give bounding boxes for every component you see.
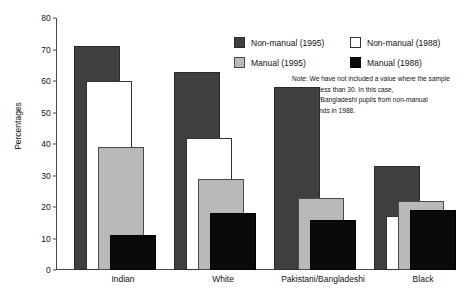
- y-axis-label-container: Percentages: [14, 0, 28, 252]
- y-tick-mark-20: [53, 207, 56, 208]
- x-tick-label: Pakistani/Bangladeshi: [281, 274, 365, 284]
- legend-swatch-icon: [350, 37, 361, 48]
- y-tick-10: 10: [41, 234, 51, 244]
- x-tick-label: White: [212, 274, 234, 284]
- y-tick-mark-80: [53, 18, 56, 19]
- y-tick-mark-60: [53, 81, 56, 82]
- legend-column-right: Non-manual (1988)Manual (1988): [350, 34, 440, 74]
- y-tick-20: 20: [41, 202, 51, 212]
- y-tick-mark-70: [53, 49, 56, 50]
- legend-item: Non-manual (1988): [350, 34, 440, 51]
- y-tick-0: 0: [46, 265, 51, 275]
- legend-label: Non-manual (1995): [251, 38, 324, 48]
- y-tick-70: 70: [41, 45, 51, 55]
- legend-item: Non-manual (1995): [234, 34, 324, 51]
- x-tick-label: Indian: [111, 274, 134, 284]
- legend-item: Manual (1995): [234, 54, 324, 71]
- y-tick-30: 30: [41, 171, 51, 181]
- legend-swatch-icon: [234, 37, 245, 48]
- legend-swatch-icon: [350, 57, 361, 68]
- y-tick-mark-50: [53, 112, 56, 113]
- y-axis-label: Percentages: [13, 102, 23, 150]
- y-tick-80: 80: [41, 13, 51, 23]
- bar-chart: Percentages 01020304050607080 IndianWhit…: [0, 0, 464, 298]
- y-tick-40: 40: [41, 139, 51, 149]
- legend-column-left: Non-manual (1995)Manual (1995): [234, 34, 324, 74]
- y-tick-mark-40: [53, 144, 56, 145]
- bar: [110, 235, 156, 270]
- bar: [410, 210, 456, 270]
- x-tick-label: Black: [413, 274, 434, 284]
- legend-swatch-icon: [234, 57, 245, 68]
- y-tick-60: 60: [41, 76, 51, 86]
- legend-label: Manual (1988): [367, 58, 422, 68]
- legend-item: Manual (1988): [350, 54, 440, 71]
- legend-label: Non-manual (1988): [367, 38, 440, 48]
- bar-group-indian: [74, 18, 160, 270]
- y-axis-line: [56, 18, 57, 270]
- y-tick-50: 50: [41, 108, 51, 118]
- y-tick-mark-10: [53, 238, 56, 239]
- legend-label: Manual (1995): [251, 58, 306, 68]
- bar: [210, 213, 256, 270]
- y-tick-mark-30: [53, 175, 56, 176]
- bar: [310, 220, 356, 270]
- y-tick-mark-0: [53, 270, 56, 271]
